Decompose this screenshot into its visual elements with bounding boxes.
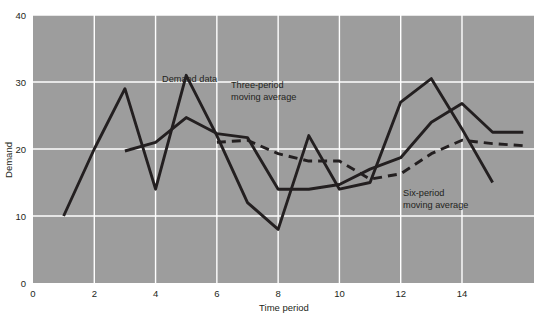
y-tick-30: 30	[15, 77, 26, 88]
x-axis-title: Time period	[259, 302, 309, 313]
y-tick-0: 0	[21, 278, 26, 289]
x-axis-tick-labels: 02468101214	[30, 288, 467, 299]
x-tick-4: 4	[153, 288, 158, 299]
x-tick-0: 0	[30, 288, 35, 299]
chart-container: 403020100 02468101214 Time period Demand…	[0, 0, 548, 321]
x-tick-2: 2	[92, 288, 97, 299]
x-tick-12: 12	[395, 288, 406, 299]
demand-line-chart: 403020100 02468101214 Time period Demand…	[0, 0, 548, 321]
x-tick-8: 8	[275, 288, 280, 299]
y-tick-20: 20	[15, 144, 26, 155]
x-tick-14: 14	[457, 288, 468, 299]
y-tick-10: 10	[15, 211, 26, 222]
annotation-demand-data: Demand data	[162, 74, 218, 84]
x-tick-6: 6	[214, 288, 219, 299]
y-axis-tick-labels: 403020100	[15, 10, 26, 289]
x-tick-10: 10	[334, 288, 345, 299]
y-axis-title: Demand	[3, 142, 14, 178]
y-tick-40: 40	[15, 10, 26, 21]
